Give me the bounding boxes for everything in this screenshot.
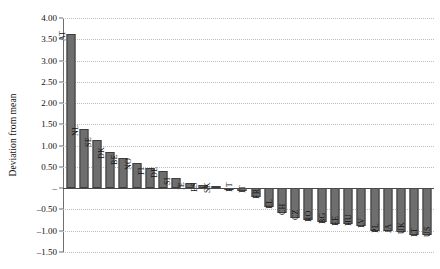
y-axis-tick-label: 0.50 xyxy=(41,162,57,172)
bar-category-label: HU xyxy=(344,214,353,226)
bar-slot[interactable]: BE xyxy=(117,18,130,252)
bar-slot[interactable]: LT xyxy=(408,18,421,252)
bar-slot[interactable]: SI xyxy=(170,18,183,252)
bar-slot[interactable]: FI xyxy=(143,18,156,252)
bar-slot[interactable]: PT xyxy=(223,18,236,252)
bar-category-label: LT xyxy=(410,228,419,237)
bar-category-label: AT xyxy=(58,31,67,41)
y-axis-tickmark xyxy=(59,252,63,253)
bar-category-label: EE xyxy=(331,216,340,226)
bar-slot[interactable]: DE xyxy=(157,18,170,252)
y-axis-tickmark xyxy=(59,18,63,19)
y-axis-tickmark xyxy=(59,124,63,125)
bar-category-label: SE xyxy=(84,137,93,147)
bar-category-label: BE xyxy=(110,155,119,166)
bar-slot[interactable]: IT xyxy=(236,18,249,252)
bar-slot[interactable]: RO xyxy=(302,18,315,252)
bar-category-label: US xyxy=(423,227,432,238)
bar-slot[interactable]: SK xyxy=(209,18,222,252)
bar-slot[interactable]: NO xyxy=(130,18,143,252)
bar-category-label: CH xyxy=(278,203,287,215)
bar-slot[interactable]: US xyxy=(421,18,434,252)
bar-slot[interactable]: BG xyxy=(315,18,328,252)
y-axis-tick-label: –0.50 xyxy=(37,204,57,214)
y-axis-tickmark xyxy=(59,166,63,167)
bar-category-label: PL xyxy=(371,223,380,233)
y-axis-tickmark xyxy=(59,103,63,104)
plot-area: 4.003.503.002.502.001.501.000.50––0.50–1… xyxy=(63,18,434,252)
bar-category-label: JA xyxy=(384,224,393,233)
y-axis-tick-label: 3.00 xyxy=(41,56,57,66)
bar-category-label: LV xyxy=(357,217,366,227)
y-axis-tick-label: 2.00 xyxy=(41,98,57,108)
bar-slot[interactable]: FR xyxy=(249,18,262,252)
y-axis-tick-label: 4.00 xyxy=(41,13,57,23)
y-axis-tickmark xyxy=(59,60,63,61)
bar-slot[interactable]: SE xyxy=(90,18,103,252)
bar-category-label: DK xyxy=(97,147,106,159)
bar-slot[interactable]: CH xyxy=(275,18,288,252)
bar-category-label: PT xyxy=(225,182,234,192)
bar-category-label: SI xyxy=(163,177,172,185)
y-axis-tickmark xyxy=(59,230,63,231)
bar-category-label: RO xyxy=(304,210,313,222)
y-axis-tick-label: 1.00 xyxy=(41,141,57,151)
bars-group: ATNLSEDKBENOFIDESIIEESSKPTITFRELCHCZROBG… xyxy=(64,18,434,252)
bar-category-label: BG xyxy=(318,212,327,224)
bar-slot[interactable]: IE xyxy=(183,18,196,252)
bar-slot[interactable]: CZ xyxy=(289,18,302,252)
bar-category-label: NO xyxy=(124,158,133,170)
bar-slot[interactable]: HU xyxy=(342,18,355,252)
y-axis-title-label: Deviation from mean xyxy=(8,93,18,176)
bar-category-label: FR xyxy=(252,189,261,199)
y-axis-title: Deviation from mean xyxy=(4,0,22,269)
bar-slot[interactable]: JA xyxy=(381,18,394,252)
y-axis-tick-label: 3.50 xyxy=(41,34,57,44)
zero-baseline xyxy=(63,188,434,189)
deviation-from-mean-bar-chart: Deviation from mean 4.003.503.002.502.00… xyxy=(0,0,440,269)
y-axis-tick-label: –1.00 xyxy=(37,226,57,236)
bar-slot[interactable]: NL xyxy=(77,18,90,252)
bar-slot[interactable]: UK xyxy=(394,18,407,252)
bar-category-label: DE xyxy=(150,167,159,178)
gridline xyxy=(63,252,434,253)
y-axis-tick-label: – xyxy=(53,183,58,193)
bar-slot[interactable]: EL xyxy=(262,18,275,252)
y-axis-tick-label: 1.50 xyxy=(41,119,57,129)
y-axis-tick-label: –1.50 xyxy=(37,247,57,257)
bar-slot[interactable]: DK xyxy=(104,18,117,252)
y-axis-tickmark xyxy=(59,209,63,210)
bar-slot[interactable]: PL xyxy=(368,18,381,252)
bar-category-label: FI xyxy=(137,168,146,176)
bar-category-label: CZ xyxy=(291,209,300,220)
bar-category-label: UK xyxy=(397,222,406,234)
bar-category-label: ES xyxy=(190,182,199,192)
bar-slot[interactable]: ES xyxy=(196,18,209,252)
y-axis-tick-label: 2.50 xyxy=(41,77,57,87)
bar-category-label: EL xyxy=(265,199,274,209)
bar-category-label: NL xyxy=(71,125,80,136)
y-axis-tickmark xyxy=(59,145,63,146)
y-axis-tickmark xyxy=(59,81,63,82)
bar[interactable] xyxy=(66,34,75,188)
bar-slot[interactable]: EE xyxy=(328,18,341,252)
bar-slot[interactable]: LV xyxy=(355,18,368,252)
